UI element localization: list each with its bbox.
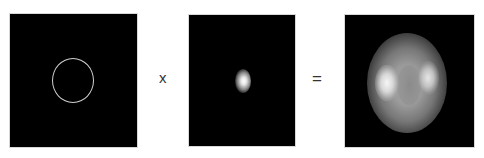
result-right-lobe bbox=[417, 61, 439, 95]
multiply-operator: x bbox=[159, 70, 167, 85]
kernel-panel bbox=[189, 15, 295, 146]
equals-operator: = bbox=[312, 70, 322, 87]
object-panel bbox=[10, 14, 137, 147]
result-panel bbox=[345, 15, 474, 147]
kernel-blob bbox=[235, 69, 251, 93]
result-left-lobe bbox=[375, 65, 399, 101]
ring-shape bbox=[52, 58, 94, 103]
